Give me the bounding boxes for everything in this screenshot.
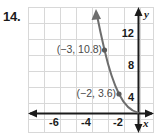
y-axis-bottom-arrow: [135, 124, 143, 133]
x-axis-left-arrow: [28, 110, 37, 118]
y-axis-top-arrow: [135, 7, 143, 16]
point-label-lower: (−2, 3.6): [77, 87, 116, 99]
exercise-figure: 14.: [0, 0, 155, 140]
point-label-upper: (−3, 10.8): [57, 43, 102, 55]
x-tick-label: -2: [113, 116, 123, 128]
x-axis-name: x: [142, 117, 149, 129]
point-marker: [116, 91, 121, 96]
graph-svg: -6 -4 -2 12 8 4 y x (−3, 10.8) (−2, 3.6): [28, 7, 154, 133]
y-tick-label: 12: [122, 27, 134, 39]
y-tick-label: 8: [128, 59, 134, 71]
x-tick-label: -4: [81, 116, 92, 128]
y-tick-label: 4: [128, 91, 135, 103]
x-tick-label: -6: [49, 116, 59, 128]
coordinate-graph: -6 -4 -2 12 8 4 y x (−3, 10.8) (−2, 3.6): [28, 7, 154, 133]
exercise-number-label: 14.: [3, 9, 20, 24]
y-axis-name: y: [142, 8, 149, 20]
point-marker: [102, 47, 107, 52]
